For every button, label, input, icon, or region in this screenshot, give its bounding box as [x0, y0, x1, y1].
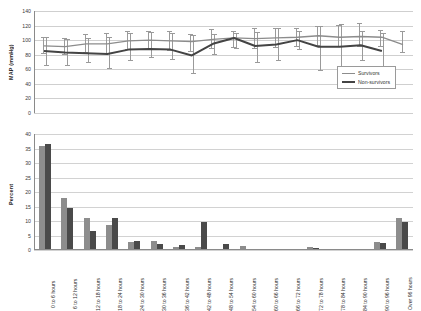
bar-non-survivors: [201, 222, 207, 250]
y-tick-label: 20: [25, 95, 31, 101]
bar-group: [101, 134, 123, 250]
bar-group: [302, 134, 324, 250]
x-tick-label: 42 to 48 hours: [190, 252, 212, 311]
x-tick-label: 24 to 30 hours: [123, 252, 145, 311]
bar-non-survivors: [45, 144, 51, 250]
bottom-y-tick-labels: 0510152025303540: [0, 134, 31, 250]
bar-group: [324, 134, 346, 250]
bar-group: [34, 134, 56, 250]
y-tick-label: 30: [25, 160, 31, 166]
x-tick-label: 18 to 24 hours: [101, 252, 123, 311]
bar-group: [168, 134, 190, 250]
bar-group: [212, 134, 234, 250]
bar-non-survivors: [112, 218, 118, 250]
x-tick-label: 54 to 60 hours: [235, 252, 257, 311]
legend-swatch-survivors-icon: [342, 73, 355, 74]
y-tick-label: 35: [25, 146, 31, 152]
bar-non-survivors: [67, 208, 73, 250]
figure-root: MAP (mmHg) 020406080100120140 Survivors …: [0, 0, 421, 311]
bar-group: [123, 134, 145, 250]
bar-group: [56, 134, 78, 250]
bar-plot-area: [34, 134, 413, 250]
bar-group: [235, 134, 257, 250]
x-tick-label: 78 to 84 hours: [324, 252, 346, 311]
bar-group: [346, 134, 368, 250]
top-y-tick-labels: 020406080100120140: [0, 11, 31, 113]
x-tick-label: 90 to 96 hours: [368, 252, 390, 311]
y-tick-label: 100: [22, 37, 31, 43]
x-tick-label: 12 to 18 hours: [79, 252, 101, 311]
bar-chart-panel: Percent 0510152025303540 0 to 6 hours6 t…: [0, 130, 421, 311]
legend-label-survivors: Survivors: [358, 70, 380, 76]
legend-item-non-survivors: Non-survivors: [342, 79, 390, 85]
y-tick-label: 5: [28, 233, 31, 239]
bar-group: [79, 134, 101, 250]
x-tick-label: 30 to 36 hours: [145, 252, 167, 311]
bar-group: [190, 134, 212, 250]
x-tick-label: 60 to 66 hours: [257, 252, 279, 311]
x-tick-label: 36 to 42 hours: [168, 252, 190, 311]
x-axis-line: [34, 249, 413, 250]
bar-group: [145, 134, 167, 250]
bar-group: [391, 134, 413, 250]
x-tick-label: Over 96 hours: [391, 252, 413, 311]
bar-group: [257, 134, 279, 250]
y-tick-label: 140: [22, 8, 31, 14]
line-series-svg: [34, 11, 413, 113]
x-tick-label: 6 to 12 hours: [56, 252, 78, 311]
y-tick-label: 60: [25, 66, 31, 72]
chart-legend: Survivors Non-survivors: [337, 66, 396, 89]
bar-group: [279, 134, 301, 250]
legend-swatch-non-survivors-icon: [342, 81, 355, 83]
gridline: [34, 113, 413, 114]
bar-non-survivors: [402, 222, 408, 250]
y-tick-label: 0: [28, 247, 31, 253]
y-tick-label: 15: [25, 204, 31, 210]
x-tick-label: 66 to 72 hours: [279, 252, 301, 311]
x-tick-label: 0 to 6 hours: [34, 252, 56, 311]
legend-item-survivors: Survivors: [342, 70, 390, 76]
y-tick-label: 25: [25, 175, 31, 181]
legend-label-non-survivors: Non-survivors: [358, 79, 390, 85]
y-tick-label: 0: [28, 110, 31, 116]
y-tick-label: 10: [25, 218, 31, 224]
x-tick-label: 48 to 54 hours: [212, 252, 234, 311]
line-series-non-survivors: [44, 38, 382, 55]
y-tick-label: 80: [25, 52, 31, 58]
y-tick-label: 40: [25, 81, 31, 87]
bar-group: [368, 134, 390, 250]
x-tick-label: 84 to 90 hours: [346, 252, 368, 311]
x-tick-label: 72 to 78 hours: [302, 252, 324, 311]
line-chart-panel: MAP (mmHg) 020406080100120140 Survivors …: [0, 6, 421, 128]
bar-non-survivors: [90, 231, 96, 250]
gridline: [34, 250, 413, 251]
y-tick-label: 40: [25, 131, 31, 137]
y-tick-label: 20: [25, 189, 31, 195]
line-plot-area: [34, 11, 413, 113]
x-axis-tick-labels: 0 to 6 hours6 to 12 hours12 to 18 hours1…: [34, 252, 413, 311]
y-tick-label: 120: [22, 23, 31, 29]
